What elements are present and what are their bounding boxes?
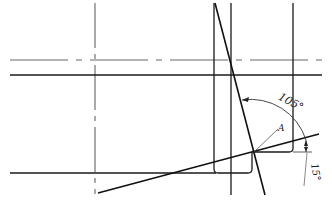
angle-label-15: 15° [309,163,323,182]
slot-outline [214,3,252,173]
angle-label-105: 105° [276,90,306,114]
angle-15-label-leader [304,153,307,186]
point-label-a: A [277,123,285,133]
shallow-inclined-line [98,134,319,193]
arrowhead-icon [304,140,308,146]
arrowhead-icon [304,147,308,152]
right-outline [254,3,293,152]
steep-inclined-line [215,3,265,195]
drawing-canvas: 105° A 15° [0,0,332,203]
